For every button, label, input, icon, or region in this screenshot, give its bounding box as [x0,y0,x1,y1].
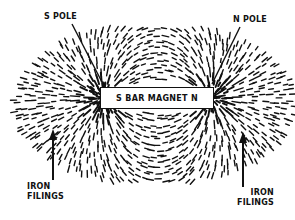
n-pole-label: N POLE [233,15,267,25]
iron-filings-right-arrow [239,132,247,187]
s-pole-label: S POLE [44,12,77,22]
iron-filings-left-caption: IRON FILINGS [27,182,64,202]
iron-filings-right-line2: FILINGS [237,198,274,208]
iron-filings-right-line1: IRON [237,188,274,198]
bar-magnet: S BAR MAGNET N [100,87,214,109]
iron-filings-left-arrow [49,129,57,180]
bar-magnet-diagram: S BAR MAGNET N S POLE N POLE IRON FILING… [0,0,295,220]
iron-filings-left-line2: FILINGS [27,192,64,202]
iron-filings-left-line1: IRON [27,182,64,192]
iron-filings-right-caption: IRON FILINGS [237,188,274,208]
s-pole-pointer-line [72,24,104,86]
bar-magnet-label: S BAR MAGNET N [116,94,198,103]
